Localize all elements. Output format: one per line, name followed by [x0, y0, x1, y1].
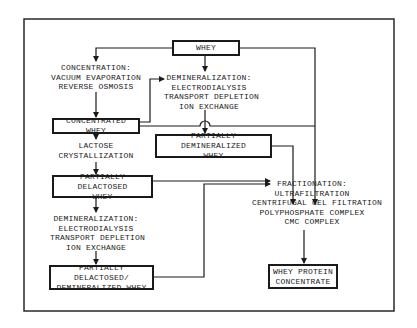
label-line: CENTRIFUGAL GEL FILTRATION	[252, 198, 372, 208]
node-partially-delactosed-demineralized-whey: PARTIALLY DELACTOSED/ DEMINERALIZED WHEY	[49, 265, 154, 290]
process-fractionation: FRACTIONATION: ULTRAFILTRATION CENTRIFUG…	[252, 179, 372, 227]
label-line: FRACTIONATION:	[252, 179, 372, 189]
node-concentrated-whey: CONCENTRATED WHEY	[52, 118, 140, 134]
label-line: TRANSPORT DEPLETION	[164, 92, 254, 102]
label-line: PARTIALLY DEMINERALIZED	[157, 131, 270, 151]
label-line: ION EXCHANGE	[50, 243, 142, 253]
process-demineralization-top: DEMINERALIZATION: ELECTRODIALYSIS TRANSP…	[164, 73, 254, 111]
label-line: TRANSPORT DEPLETION	[50, 233, 142, 243]
process-concentration: CONCENTRATION: VACUUM EVAPORATION REVERS…	[50, 63, 142, 92]
label-line: LACTOSE	[56, 141, 136, 151]
process-demineralization-bottom: DEMINERALIZATION: ELECTRODIALYSIS TRANSP…	[50, 214, 142, 252]
label-line: ION EXCHANGE	[164, 102, 254, 112]
label-line: POLYPHOSPHATE COMPLEX	[252, 208, 372, 218]
node-whey: WHEY	[172, 40, 240, 56]
label-line: ULTRAFILTRATION	[252, 189, 372, 199]
process-lactose-crystallization: LACTOSE CRYSTALLIZATION	[56, 141, 136, 160]
label-line: CONCENTRATE	[275, 277, 330, 287]
label-line: PARTIALLY DELACTOSED/	[51, 263, 152, 283]
label-line: PARTIALLY DELACTOSED	[54, 172, 151, 192]
label-line: REVERSE OSMOSIS	[50, 82, 142, 92]
label-line: CONCENTRATION:	[50, 63, 142, 73]
label-line: CRYSTALLIZATION	[56, 151, 136, 161]
label-line: CMC COMPLEX	[252, 217, 372, 227]
node-partially-demineralized-whey: PARTIALLY DEMINERALIZED WHEY	[155, 134, 272, 158]
node-whey-label: WHEY	[196, 43, 216, 53]
label-line: WHEY	[203, 151, 223, 161]
node-partially-delactosed-whey: PARTIALLY DELACTOSED WHEY	[52, 175, 153, 198]
label-line: DEMINERALIZATION:	[164, 73, 254, 83]
label-line: ELECTRODIALYSIS	[50, 224, 142, 234]
label-line: DEMINERALIZED WHEY	[56, 283, 146, 293]
label-line: WHEY PROTEIN	[273, 267, 333, 277]
node-whey-protein-concentrate: WHEY PROTEIN CONCENTRATE	[268, 264, 338, 289]
node-concentrated-whey-label: CONCENTRATED WHEY	[54, 116, 138, 136]
label-line: WHEY	[92, 192, 112, 202]
label-line: ELECTRODIALYSIS	[164, 83, 254, 93]
label-line: DEMINERALIZATION:	[50, 214, 142, 224]
label-line: VACUUM EVAPORATION	[50, 73, 142, 83]
